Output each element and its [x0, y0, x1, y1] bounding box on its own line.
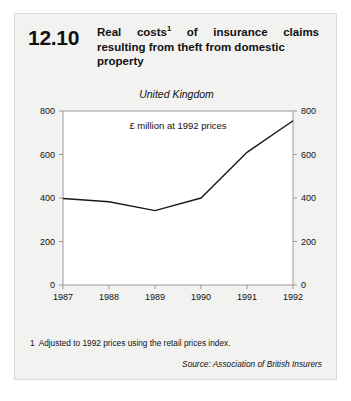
- figure-header: 12.10 Real costs1 of insurance claims re…: [15, 14, 336, 86]
- footnote: 1Adjusted to 1992 prices using the retai…: [30, 338, 231, 348]
- svg-text:0: 0: [50, 280, 55, 290]
- svg-text:1992: 1992: [283, 292, 303, 302]
- svg-text:200: 200: [301, 237, 316, 247]
- plot-background: [63, 111, 293, 285]
- figure-card: 12.10 Real costs1 of insurance claims re…: [14, 13, 337, 380]
- svg-text:400: 400: [40, 193, 55, 203]
- figure-page: 12.10 Real costs1 of insurance claims re…: [0, 0, 351, 401]
- svg-text:800: 800: [40, 106, 55, 116]
- svg-text:600: 600: [40, 150, 55, 160]
- y-axis-left-ticks: 0200400600800: [40, 106, 63, 290]
- svg-text:800: 800: [301, 106, 316, 116]
- svg-text:0: 0: [301, 280, 306, 290]
- figure-title-part-3: resulting from theft from domestic: [97, 41, 285, 53]
- svg-text:1988: 1988: [99, 292, 119, 302]
- svg-text:400: 400: [301, 193, 316, 203]
- svg-text:600: 600: [301, 150, 316, 160]
- x-axis-ticks: 198719881989199019911992: [53, 285, 303, 302]
- figure-title-part-2: of insurance claims: [171, 26, 319, 38]
- footnote-text: Adjusted to 1992 prices using the retail…: [39, 338, 231, 348]
- svg-text:1990: 1990: [191, 292, 211, 302]
- plot-wrapper: 0200400600800 0200400600800 198719881989…: [15, 86, 338, 331]
- footnote-number: 1: [30, 338, 35, 348]
- chart-area: United Kingdom 0200400600800 02004006008…: [15, 86, 338, 331]
- y-axis-right-ticks: 0200400600800: [293, 106, 316, 290]
- source-note: Source: Association of British Insurers: [182, 359, 322, 369]
- figure-title: Real costs1 of insurance claims resultin…: [97, 25, 319, 69]
- svg-text:200: 200: [40, 237, 55, 247]
- chart-units-label: £ million at 1992 prices: [63, 120, 293, 131]
- svg-text:1989: 1989: [145, 292, 165, 302]
- figure-title-part-4: property: [97, 54, 319, 69]
- svg-text:1991: 1991: [237, 292, 257, 302]
- figure-number: 12.10: [28, 26, 79, 50]
- figure-title-part-1: Real costs: [97, 26, 167, 38]
- svg-text:1987: 1987: [53, 292, 73, 302]
